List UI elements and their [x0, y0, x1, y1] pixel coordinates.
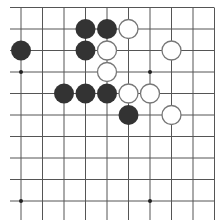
- black-stone: [76, 19, 96, 39]
- star-point: [19, 199, 23, 203]
- black-stone: [11, 41, 31, 61]
- star-point: [148, 70, 152, 74]
- white-stone: [162, 41, 181, 60]
- black-stone: [97, 19, 117, 39]
- white-stone: [141, 84, 160, 103]
- white-stone: [119, 84, 138, 103]
- black-stone: [119, 105, 139, 125]
- board-grid: [10, 8, 215, 221]
- star-point: [148, 199, 152, 203]
- black-stone: [76, 84, 96, 104]
- black-stone: [97, 84, 117, 104]
- black-stone: [76, 41, 96, 61]
- white-stone: [162, 106, 181, 125]
- white-stone: [98, 41, 117, 60]
- black-stone: [54, 84, 74, 104]
- white-stone: [98, 63, 117, 82]
- star-point: [19, 70, 23, 74]
- go-board[interactable]: [0, 0, 218, 223]
- white-stone: [119, 20, 138, 39]
